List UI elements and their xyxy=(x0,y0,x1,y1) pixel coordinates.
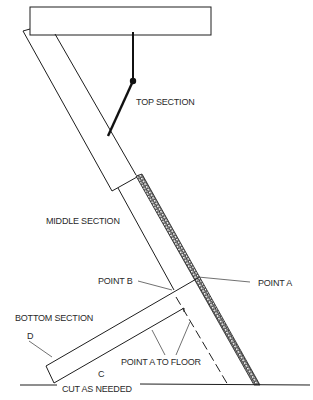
ladder-diagram: TOP SECTION MIDDLE SECTION POINT B POINT… xyxy=(0,0,313,400)
label-c: C xyxy=(98,369,105,379)
label-middle-section: MIDDLE SECTION xyxy=(46,216,120,226)
label-point-a-to-floor: POINT A TO FLOOR xyxy=(121,357,202,367)
ceiling-frame xyxy=(30,7,211,35)
label-bottom-section: BOTTOM SECTION xyxy=(15,313,93,323)
label-point-a: POINT A xyxy=(258,278,292,288)
bottom-section xyxy=(46,278,198,383)
middle-section xyxy=(118,174,260,385)
hinge-arm xyxy=(108,32,136,136)
label-point-b: POINT B xyxy=(98,276,133,286)
label-d: D xyxy=(27,331,34,341)
label-top-section: TOP SECTION xyxy=(136,97,194,107)
label-cut-as-needed: CUT AS NEEDED xyxy=(62,384,132,394)
